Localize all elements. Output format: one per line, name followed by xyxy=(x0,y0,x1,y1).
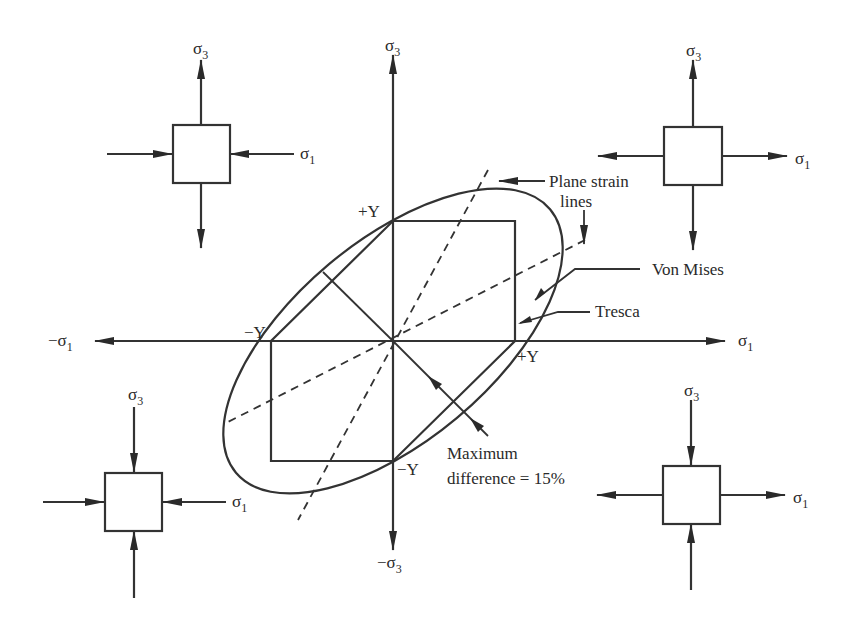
tresca-leader-arrowhead xyxy=(518,316,532,324)
plus-y-right-label: +Y xyxy=(517,347,539,366)
stress-element-top-left: σ3 σ1 xyxy=(107,39,315,248)
yield-criteria-diagram: σ3 σ1 −σ1 −σ3 +Y −Y +Y −Y Plane strain l… xyxy=(0,0,850,627)
plane-strain-label-line2: lines xyxy=(560,192,592,211)
stress-element-top-right-s1-label: σ1 xyxy=(795,149,810,172)
stress-element-bottom-right: σ3 σ1 xyxy=(597,381,808,590)
von-mises-leader xyxy=(535,269,640,300)
stress-element-top-right: σ3 σ1 xyxy=(598,41,810,250)
stress-element-top-left-s3-label: σ3 xyxy=(193,39,208,62)
max-difference-label: Maximum xyxy=(447,444,518,463)
max-difference-line xyxy=(323,272,393,341)
minus-y-bottom-label: −Y xyxy=(397,460,419,479)
minus-y-left-label: −Y xyxy=(244,323,266,342)
max-difference-label-line2: difference = 15% xyxy=(447,469,565,488)
stress-element-bottom-left-s3-label: σ3 xyxy=(128,385,143,408)
von-mises-leader-arrowhead xyxy=(535,288,545,300)
plus-y-top-label: +Y xyxy=(358,202,380,221)
stress-element-bottom-left-s1-label: σ1 xyxy=(232,492,247,515)
sigma1-neg-label: −σ1 xyxy=(48,331,73,354)
sigma3-neg-label: −σ3 xyxy=(377,553,402,576)
von-mises-label: Von Mises xyxy=(652,260,724,279)
stress-element-bottom-right-s1-label: σ1 xyxy=(793,488,808,511)
sigma1-pos-label: σ1 xyxy=(738,331,753,354)
tresca-label: Tresca xyxy=(595,302,640,321)
stress-element-bottom-left: σ3 σ1 xyxy=(43,385,247,598)
stress-element-top-left-s1-label: σ1 xyxy=(300,144,315,167)
plane-strain-label: Plane strain xyxy=(549,172,629,191)
